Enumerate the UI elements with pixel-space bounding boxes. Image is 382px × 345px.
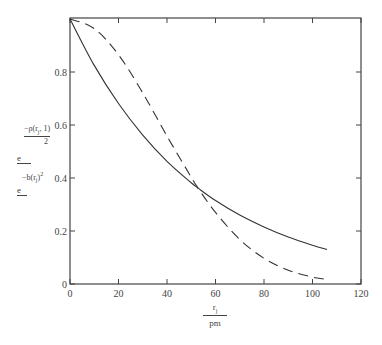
x-axis-label: rj pm <box>203 302 227 328</box>
plot-frame <box>70 18 361 284</box>
x-tick-label: 80 <box>259 288 269 299</box>
axes-frame <box>70 18 361 284</box>
y-axis-label: −ρ(rj, 1) 2 e −b(rj)2 e <box>14 125 70 199</box>
x-tick-label: 60 <box>211 288 221 299</box>
y-tick-label: 0.8 <box>55 67 68 78</box>
y-label-expr-2: −b(rj)2 e <box>14 169 70 199</box>
series-gaussian-dashed <box>70 19 327 279</box>
axis-ticks <box>70 18 361 284</box>
x-tick-label: 0 <box>68 288 73 299</box>
y-tick-label: 0 <box>62 279 67 290</box>
data-series <box>70 19 327 279</box>
x-tick-label: 100 <box>305 288 320 299</box>
x-tick-label: 120 <box>354 288 369 299</box>
axis-tick-labels: 02040608010012000.20.40.60.8 <box>55 67 369 300</box>
series-exponential-solid <box>70 19 327 250</box>
x-tick-label: 20 <box>114 288 124 299</box>
y-label-expr-1: −ρ(rj, 1) 2 e <box>14 125 70 169</box>
y-tick-label: 0.2 <box>55 226 68 237</box>
x-tick-label: 40 <box>162 288 172 299</box>
